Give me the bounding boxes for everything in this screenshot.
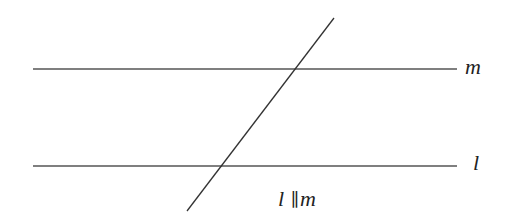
caption-l: l: [278, 186, 284, 211]
diagram-canvas: [0, 0, 508, 220]
parallel-symbol: ∥: [291, 190, 299, 210]
caption-m: m: [300, 186, 316, 211]
label-m: m: [465, 54, 481, 80]
label-l: l: [473, 150, 479, 176]
transversal-line: [187, 18, 334, 211]
parallel-caption: l ∥m: [278, 186, 316, 212]
